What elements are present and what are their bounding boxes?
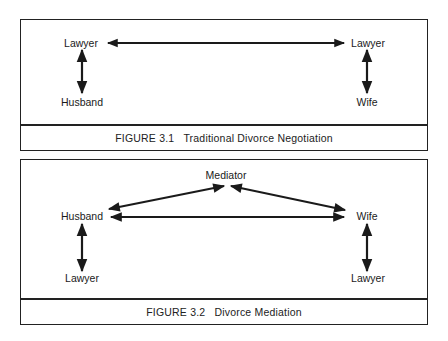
arrow-husband-mediator [109,186,224,209]
node-husband: Husband [61,96,103,108]
node-lawyer-right: Lawyer [351,37,385,49]
arrow-mediator-wife [231,186,345,210]
node-wife: Wife [357,96,378,108]
node-mediator: Mediator [206,169,247,181]
node-lawyer-left: Lawyer [65,272,99,284]
node-lawyer-left: Lawyer [64,37,98,49]
node-husband: Husband [61,210,103,222]
node-wife: Wife [357,210,378,222]
node-lawyer-right: Lawyer [351,272,385,284]
